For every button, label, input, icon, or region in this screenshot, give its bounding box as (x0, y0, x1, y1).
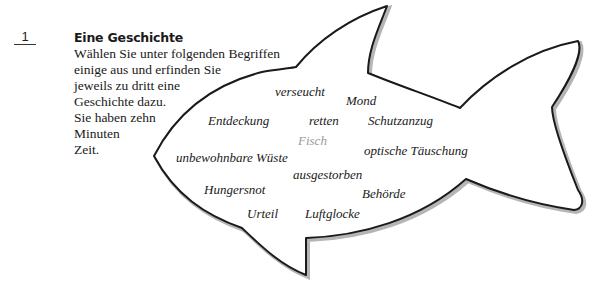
fish-outline-illustration (0, 0, 593, 286)
word-mond: Mond (346, 93, 376, 109)
word-unbewohnbare-wueste: unbewohnbare Wüste (176, 150, 288, 166)
word-entdeckung: Entdeckung (208, 113, 269, 129)
word-optische-taeuschung: optische Täuschung (364, 143, 468, 159)
word-verseucht: verseucht (275, 84, 325, 100)
word-ausgestorben: ausgestorben (293, 167, 362, 183)
word-schutzanzug: Schutzanzug (368, 113, 433, 129)
word-hungersnot: Hungersnot (204, 182, 265, 198)
word-urteil: Urteil (247, 206, 278, 222)
word-retten: retten (309, 113, 339, 129)
word-fisch-center: Fisch (298, 133, 327, 149)
word-luftglocke: Luftglocke (305, 206, 360, 222)
word-behoerde: Behörde (362, 186, 406, 202)
